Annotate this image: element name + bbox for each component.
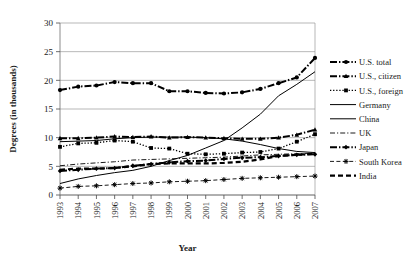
legend-label: India (359, 171, 377, 181)
y-axis-ticks: 051015202530 (44, 18, 60, 200)
x-tick-label: 1996 (110, 202, 120, 219)
x-tick-label: 1995 (92, 202, 102, 219)
legend-label: UK (359, 128, 372, 138)
series-u-s-citizen (58, 127, 318, 140)
y-tick-label: 15 (44, 104, 54, 114)
x-tick-label: 2006 (292, 202, 302, 219)
y-tick-label: 25 (44, 47, 54, 57)
x-tick-label: 2002 (219, 202, 229, 219)
x-axis-ticks: 1993199419951996199719981999200020012002… (55, 195, 320, 219)
data-point-marker (276, 175, 281, 180)
legend-item-china[interactable]: China (330, 114, 380, 124)
data-point-marker (167, 179, 172, 184)
data-point-marker (58, 88, 62, 92)
legend-label: China (359, 114, 380, 124)
data-point-marker (131, 81, 135, 85)
data-point-marker (76, 142, 80, 146)
legend-item-uk[interactable]: UK (330, 128, 372, 138)
data-point-marker (94, 183, 99, 188)
y-tick-label: 5 (49, 162, 54, 172)
y-tick-label: 30 (44, 18, 54, 28)
x-tick-label: 2000 (183, 202, 193, 219)
data-point-marker (76, 184, 81, 189)
data-point-marker (221, 177, 226, 182)
legend-item-u-s-citizen[interactable]: U.S., citizen (330, 71, 402, 81)
x-tick-label: 2003 (237, 202, 247, 219)
data-point-marker (295, 140, 299, 144)
data-point-marker (313, 132, 317, 136)
x-tick-label: 1999 (164, 202, 174, 219)
data-point-marker (112, 182, 117, 187)
x-axis-title: Year (179, 243, 197, 253)
data-point-marker (204, 158, 208, 163)
y-tick-label: 0 (49, 190, 54, 200)
legend-label: U.S., citizen (359, 71, 402, 81)
legend-item-japan[interactable]: Japan (330, 142, 379, 152)
data-point-marker (131, 140, 135, 144)
data-point-marker (313, 56, 317, 60)
data-point-marker (203, 178, 208, 183)
data-point-marker (185, 179, 190, 184)
x-tick-label: 1997 (128, 202, 138, 219)
legend-item-india[interactable]: India (330, 171, 377, 181)
legend-label: Germany (359, 100, 391, 110)
data-series-group (58, 56, 318, 191)
data-point-marker (149, 180, 154, 185)
x-tick-label: 2007 (310, 202, 320, 219)
data-point-marker (149, 146, 153, 150)
data-point-marker (295, 75, 299, 79)
legend-label: South Korea (359, 157, 402, 167)
data-point-marker (94, 83, 98, 87)
data-point-marker (258, 87, 262, 91)
data-point-marker (149, 81, 153, 85)
x-tick-label: 2004 (256, 201, 266, 219)
data-point-marker (222, 152, 226, 156)
x-tick-label: 1994 (73, 201, 83, 219)
legend-label: U.S. total (359, 57, 392, 67)
chart-canvas: 051015202530 199319941995199619971998199… (0, 0, 420, 271)
x-tick-label: 2005 (274, 202, 284, 219)
data-point-marker (113, 80, 117, 84)
data-point-marker (204, 91, 208, 95)
x-tick-label: 2001 (201, 202, 211, 219)
data-point-marker (276, 81, 280, 85)
data-point-marker (240, 90, 244, 94)
data-point-marker (130, 181, 135, 186)
y-axis-title: Degrees (in thousands) (8, 65, 18, 152)
data-point-marker (240, 176, 245, 181)
legend-item-south-korea[interactable]: South Korea (330, 157, 402, 167)
legend-label: U.S., foreign (359, 86, 404, 96)
data-point-marker (76, 85, 80, 89)
data-point-marker (344, 60, 348, 64)
data-point-marker (204, 152, 208, 156)
data-point-marker (167, 89, 171, 93)
y-tick-label: 20 (44, 76, 54, 86)
chart-legend: U.S. totalU.S., citizenU.S., foreignGerm… (330, 57, 404, 181)
data-point-marker (344, 89, 348, 93)
data-point-marker (240, 151, 244, 155)
x-tick-label: 1998 (146, 202, 156, 219)
legend-item-u-s-foreign[interactable]: U.S., foreign (330, 86, 404, 96)
x-tick-label: 1993 (55, 202, 65, 219)
data-point-marker (95, 141, 99, 145)
series-line (60, 72, 315, 184)
series-south-korea (58, 174, 318, 191)
data-point-marker (222, 91, 226, 95)
data-point-marker (344, 159, 349, 164)
data-point-marker (344, 145, 348, 150)
legend-label: Japan (359, 142, 379, 152)
legend-item-germany[interactable]: Germany (330, 100, 391, 110)
series-line (60, 58, 315, 94)
y-tick-label: 10 (44, 133, 54, 143)
series-u-s-total (58, 56, 317, 96)
data-point-marker (258, 175, 263, 180)
data-point-marker (58, 145, 62, 149)
data-point-marker (58, 186, 63, 191)
data-point-marker (294, 174, 299, 179)
legend-item-u-s-total[interactable]: U.S. total (330, 57, 392, 67)
series-china (60, 72, 315, 184)
chart-figure: 051015202530 199319941995199619971998199… (0, 0, 420, 271)
data-point-marker (185, 89, 189, 93)
data-point-marker (167, 147, 171, 151)
data-point-marker (258, 150, 262, 154)
